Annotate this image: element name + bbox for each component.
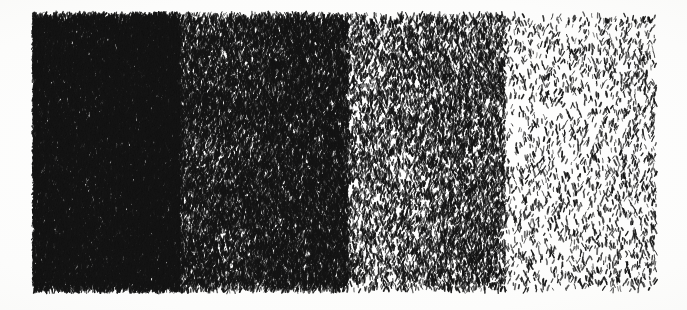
panel-region-lightest <box>505 0 656 310</box>
panel-region-light-mid <box>348 0 505 310</box>
panel-region-darkest <box>33 0 180 310</box>
panel-region-dark-mid <box>180 0 348 310</box>
artwork-root <box>0 0 687 310</box>
